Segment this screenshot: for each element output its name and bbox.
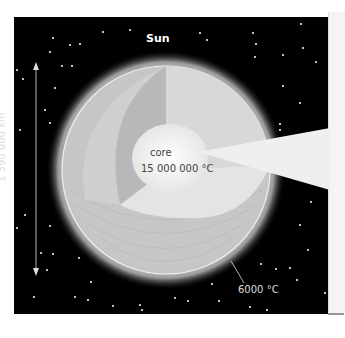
core-temperature: 15 000 000 °C [141,163,213,174]
core-label: core [150,147,172,158]
diagram-title: Sun [146,32,170,45]
diameter-label: 1 390 000 km [0,112,7,182]
surface-temperature: 6000 °C [238,284,279,295]
